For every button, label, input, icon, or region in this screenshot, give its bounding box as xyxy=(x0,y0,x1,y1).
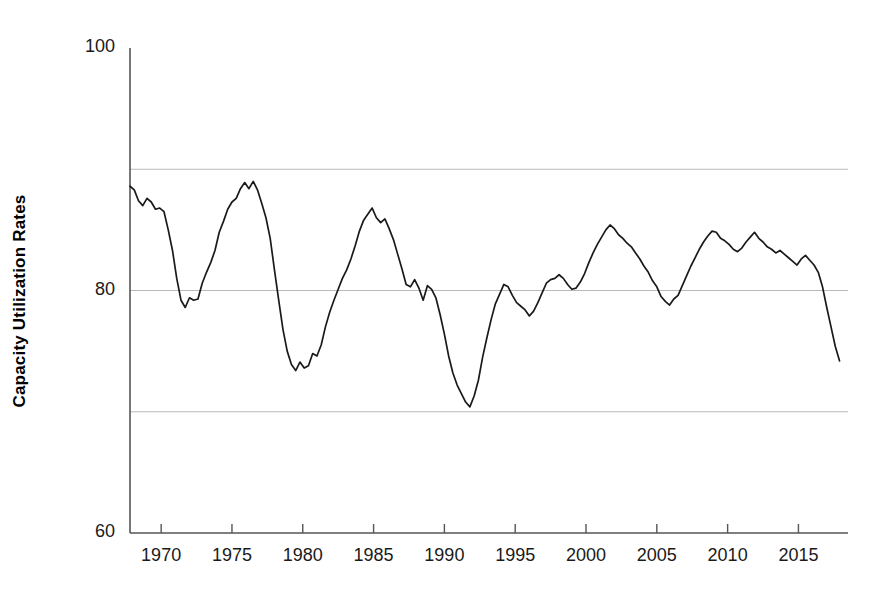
x-tick-label-1980: 1980 xyxy=(273,545,333,566)
y-tick-label-80: 80 xyxy=(55,279,115,300)
x-tick-label-2015: 2015 xyxy=(768,545,828,566)
y-tick-label-100: 100 xyxy=(55,36,115,57)
data-series-0 xyxy=(130,181,840,407)
x-tick-label-2010: 2010 xyxy=(698,545,758,566)
capacity-utilization-chart: Capacity Utilization Rates 1008060 19701… xyxy=(0,0,888,602)
x-tick-marks-group xyxy=(161,524,798,533)
x-tick-label-2005: 2005 xyxy=(627,545,687,566)
x-tick-label-1985: 1985 xyxy=(344,545,404,566)
chart-plot-area xyxy=(0,0,888,602)
x-tick-label-1975: 1975 xyxy=(202,545,262,566)
y-tick-label-60: 60 xyxy=(55,521,115,542)
gridlines-group xyxy=(130,169,848,412)
x-tick-label-1995: 1995 xyxy=(485,545,545,566)
data-series-line-group xyxy=(130,181,840,407)
x-tick-label-2000: 2000 xyxy=(556,545,616,566)
x-tick-label-1990: 1990 xyxy=(414,545,474,566)
x-tick-label-1970: 1970 xyxy=(131,545,191,566)
